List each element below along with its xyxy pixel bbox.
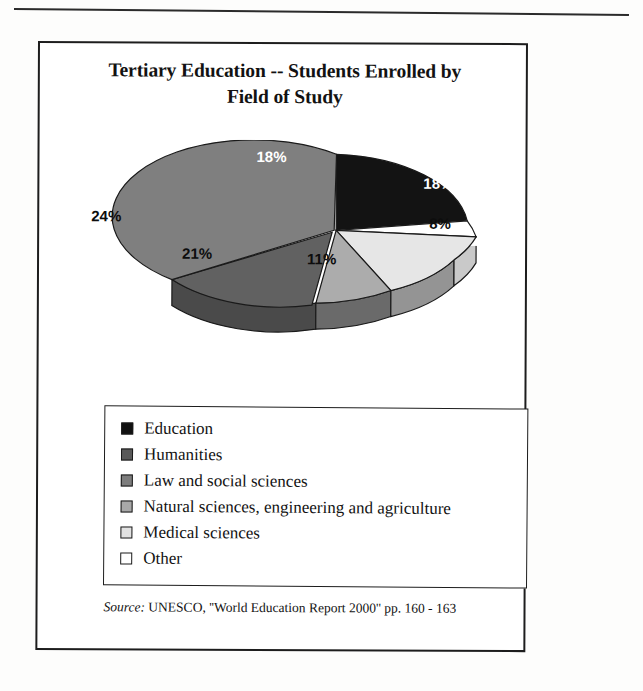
slice-value-law-social-sciences: 18% <box>256 148 286 165</box>
slice-value-humanities: 24% <box>91 207 121 224</box>
legend-label-other: Other <box>143 549 182 569</box>
slice-value-natural-sciences: 21% <box>182 245 212 262</box>
legend-item-humanities: Humanities <box>121 441 519 470</box>
scanned-page: Tertiary Education -- Students Enrolled … <box>0 0 643 691</box>
page-top-rule <box>14 8 629 16</box>
chart-legend: Education Humanities Law and social scie… <box>103 405 528 588</box>
chart-title-line-1: Tertiary Education -- Students Enrolled … <box>108 59 461 82</box>
legend-label-natural-sciences: Natural sciences, engineering and agricu… <box>144 497 451 519</box>
legend-label-humanities: Humanities <box>144 445 223 466</box>
slice-value-education: 18% <box>423 175 453 192</box>
legend-label-law-social-sciences: Law and social sciences <box>144 471 308 492</box>
legend-item-natural-sciences: Natural sciences, engineering and agricu… <box>121 493 519 522</box>
legend-item-law-social-sciences: Law and social sciences <box>121 467 519 496</box>
slice-value-medical-sciences: 11% <box>307 250 336 267</box>
legend-label-education: Education <box>144 419 213 440</box>
legend-swatch-icon-law-social-sciences <box>121 474 133 486</box>
legend-item-other: Other <box>120 545 518 574</box>
legend-item-education: Education <box>121 415 519 444</box>
page-title: Tertiary Education -- Students Enrolled … <box>58 57 512 111</box>
legend-swatch-icon-other <box>120 552 132 564</box>
figure-frame: Tertiary Education -- Students Enrolled … <box>35 41 528 652</box>
legend-swatch-icon-natural-sciences <box>121 500 133 512</box>
legend-swatch-icon-humanities <box>121 448 133 460</box>
source-label: Source: <box>103 599 145 614</box>
pie-chart: 18% 24% 18% 21% 11% 8% <box>39 139 526 376</box>
legend-item-medical-sciences: Medical sciences <box>120 519 518 548</box>
legend-swatch-icon-medical-sciences <box>120 526 132 538</box>
source-note: Source: UNESCO, ''World Education Report… <box>103 599 513 617</box>
source-text: UNESCO, ''World Education Report 2000'' … <box>145 599 456 615</box>
legend-label-medical-sciences: Medical sciences <box>143 523 260 544</box>
legend-swatch-icon-education <box>121 422 133 434</box>
slice-value-other: 8% <box>429 215 451 232</box>
chart-title-line-2: Field of Study <box>227 86 343 108</box>
